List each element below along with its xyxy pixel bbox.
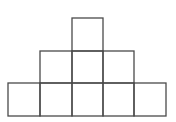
square-top-1	[72, 18, 103, 51]
square-bottom-1	[8, 83, 40, 116]
square-bottom-4	[103, 83, 134, 116]
square-bottom-3	[72, 83, 103, 116]
pyramid-grid	[8, 18, 166, 116]
square-bottom-5	[134, 83, 166, 116]
square-middle-1	[40, 51, 72, 83]
square-middle-3	[103, 51, 134, 83]
square-pyramid-diagram	[0, 0, 176, 122]
square-middle-2	[72, 51, 103, 83]
square-bottom-2	[40, 83, 72, 116]
